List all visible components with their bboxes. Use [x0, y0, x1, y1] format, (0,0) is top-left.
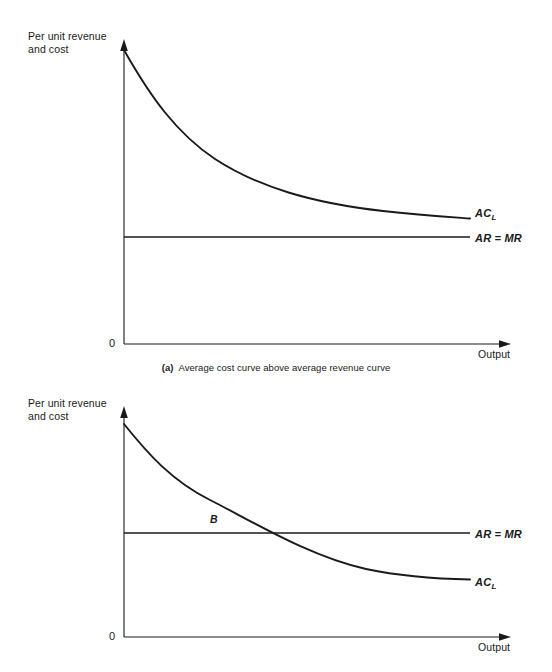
panel-a-caption: (a)Average cost curve above average reve…	[0, 362, 552, 373]
panel-a-y-axis-label: Per unit revenue and cost	[28, 30, 107, 57]
panel-a-origin-label: 0	[109, 336, 115, 350]
panel-b-ac-curve-label-text: AC	[475, 576, 491, 588]
figure-panel-a: Per unit revenue and cost 0 Output ACL A…	[0, 0, 552, 385]
panel-a-y-axis-label-line2: and cost	[28, 43, 69, 55]
panel-a-ar-mr-curve-label: AR = MR	[475, 231, 522, 245]
panel-a-x-axis-arrow-icon	[499, 340, 511, 348]
panel-a-ac-curve-label-text: AC	[475, 207, 491, 219]
panel-b-ac-curve-label-subscript: L	[492, 582, 497, 591]
panel-b-origin-label: 0	[109, 629, 115, 643]
panel-a-plot-canvas	[0, 0, 552, 385]
panel-a-ac-curve-label-subscript: L	[492, 213, 497, 222]
panel-b-ar-mr-curve-label: AR = MR	[475, 527, 522, 541]
panel-a-ac-curve	[124, 50, 470, 219]
panel-a-ac-curve-label: ACL	[475, 206, 496, 220]
panel-a-y-axis-label-line1: Per unit revenue	[28, 30, 107, 42]
panel-a-caption-tag: (a)	[162, 362, 174, 373]
panel-b-ac-curve-label: ACL	[475, 575, 496, 589]
panel-b-x-axis-label: Output	[478, 641, 510, 654]
panel-b-ac-curve	[124, 424, 470, 580]
figure-panel-b: Per unit revenue and cost 0 Output B AR …	[0, 385, 552, 672]
panel-b-y-axis-label: Per unit revenue and cost	[28, 397, 107, 424]
panel-b-plot-canvas	[0, 385, 552, 672]
panel-b-intersection-point-b-label: B	[210, 513, 218, 526]
panel-b-y-axis-arrow-icon	[120, 406, 128, 418]
panel-b-x-axis-arrow-icon	[499, 633, 511, 641]
panel-a-caption-text: Average cost curve above average revenue…	[178, 362, 390, 373]
panel-a-x-axis-label: Output	[478, 348, 510, 361]
panel-b-y-axis-label-line2: and cost	[28, 410, 69, 422]
panel-b-y-axis-label-line1: Per unit revenue	[28, 397, 107, 409]
